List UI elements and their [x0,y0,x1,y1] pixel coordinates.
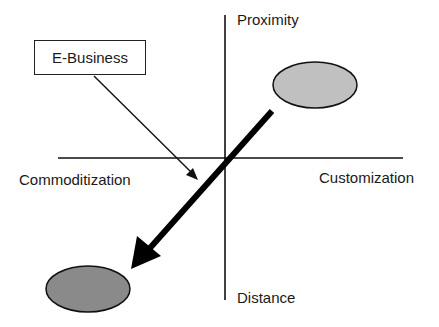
end-ellipse [46,266,130,312]
ebusiness-callout-box: E-Business [34,40,146,75]
start-ellipse [273,62,357,108]
proximity-label: Proximity [237,12,299,27]
ebusiness-label: E-Business [52,49,128,66]
commoditization-label: Commoditization [19,172,131,187]
customization-label: Customization [319,170,414,185]
shift-arrow-shaft [150,111,272,248]
distance-label: Distance [237,290,295,305]
